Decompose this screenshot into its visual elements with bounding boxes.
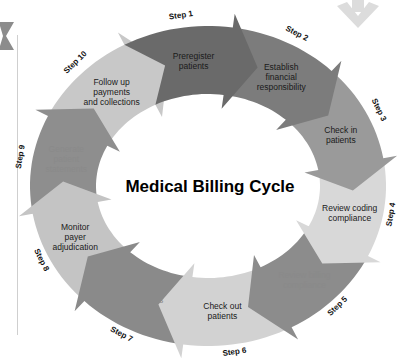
step-1-label: Preregisterpatients bbox=[173, 51, 215, 71]
step-3-label: Check inpatients bbox=[324, 125, 357, 145]
step-1-number: Step 1 bbox=[168, 9, 194, 21]
left-chevron-icon bbox=[0, 22, 14, 50]
down-arrow-icon bbox=[337, 0, 379, 28]
step-7-label: Prepare andtransmit claims bbox=[106, 285, 163, 305]
step-4-label: Review codingcompliance bbox=[322, 203, 378, 223]
medical-billing-cycle-diagram: PreregisterpatientsStep 1Establishfinanc… bbox=[0, 0, 412, 358]
step-2-number: Step 2 bbox=[284, 24, 310, 43]
cycle-graphic: PreregisterpatientsStep 1Establishfinanc… bbox=[0, 0, 412, 358]
diagram-title: Medical Billing Cycle bbox=[125, 177, 294, 196]
step-6-label: Check outpatients bbox=[203, 301, 242, 321]
step-5-label: Review billingcompliance bbox=[278, 270, 330, 290]
step-6-number: Step 6 bbox=[222, 346, 248, 358]
step-3-number: Step 3 bbox=[370, 97, 389, 123]
step-9-number: Step 9 bbox=[14, 144, 27, 170]
step-4-number: Step 4 bbox=[384, 201, 397, 227]
